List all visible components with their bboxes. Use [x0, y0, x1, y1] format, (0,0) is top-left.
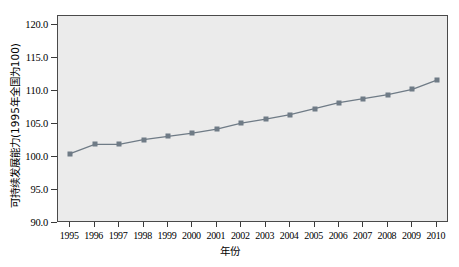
- chart-container: 120.0115.0110.0105.0100.095.090.0 可持续发展能…: [0, 0, 459, 267]
- x-axis-tick-mark: [411, 222, 412, 227]
- data-point: [361, 96, 366, 101]
- data-point: [190, 131, 195, 136]
- data-point: [288, 112, 293, 117]
- x-axis-tick-mark: [216, 222, 217, 227]
- data-point: [410, 87, 415, 92]
- x-axis-tick-label: 1998: [133, 230, 152, 241]
- data-point: [337, 100, 342, 105]
- y-axis-tick-label: 110.0: [26, 84, 48, 95]
- x-axis-tick-label: 2006: [329, 230, 348, 241]
- data-point: [165, 134, 170, 139]
- x-axis-tick-mark: [387, 222, 388, 227]
- x-axis-title: 年份: [0, 243, 459, 258]
- x-axis-tick-mark: [191, 222, 192, 227]
- x-axis-tick-label: 2008: [378, 230, 397, 241]
- x-axis-tick-label: 2002: [231, 230, 250, 241]
- x-axis-tick-label: 1999: [158, 230, 177, 241]
- y-axis-title: 可持续发展能力(1995年全国为100): [7, 26, 22, 226]
- y-axis-tick-label: 95.0: [30, 183, 48, 194]
- x-axis-tick-label: 2003: [255, 230, 274, 241]
- y-axis-tick-label: 115.0: [26, 51, 48, 62]
- data-point: [385, 92, 390, 97]
- x-axis-tick-label: 2000: [182, 230, 201, 241]
- x-axis-tick-mark: [265, 222, 266, 227]
- y-axis-tick-label: 105.0: [25, 117, 48, 128]
- x-axis-tick-mark: [118, 222, 119, 227]
- data-point: [117, 142, 122, 147]
- data-point: [92, 142, 97, 147]
- x-axis-tick-label: 2001: [206, 230, 225, 241]
- data-point: [434, 78, 439, 83]
- plot-inner: [58, 16, 447, 221]
- x-axis-tick-label: 1995: [60, 230, 79, 241]
- data-point: [214, 127, 219, 132]
- x-axis-tick-label: 2009: [402, 230, 421, 241]
- series-line: [58, 16, 449, 223]
- plot-area: [57, 15, 448, 222]
- y-axis-tick-label: 100.0: [25, 150, 48, 161]
- x-axis-tick-mark: [240, 222, 241, 227]
- data-point: [141, 137, 146, 142]
- x-axis-tick-label: 2004: [280, 230, 299, 241]
- data-point: [68, 151, 73, 156]
- data-point: [239, 121, 244, 126]
- x-axis-tick-mark: [436, 222, 437, 227]
- x-axis-tick-label: 1997: [109, 230, 128, 241]
- x-axis-tick-mark: [167, 222, 168, 227]
- x-axis-tick-label: 2007: [353, 230, 372, 241]
- x-axis-tick-mark: [362, 222, 363, 227]
- x-axis-tick-mark: [94, 222, 95, 227]
- data-point: [263, 117, 268, 122]
- x-axis-tick-mark: [289, 222, 290, 227]
- x-axis-tick-label: 2005: [304, 230, 323, 241]
- x-axis-tick-label: 1996: [84, 230, 103, 241]
- x-axis-tick-mark: [143, 222, 144, 227]
- x-axis-tick-label: 2010: [426, 230, 445, 241]
- x-axis-tick-mark: [314, 222, 315, 227]
- data-point: [312, 106, 317, 111]
- y-axis-tick-label: 120.0: [25, 18, 48, 29]
- x-axis-tick-mark: [338, 222, 339, 227]
- x-axis-tick-mark: [69, 222, 70, 227]
